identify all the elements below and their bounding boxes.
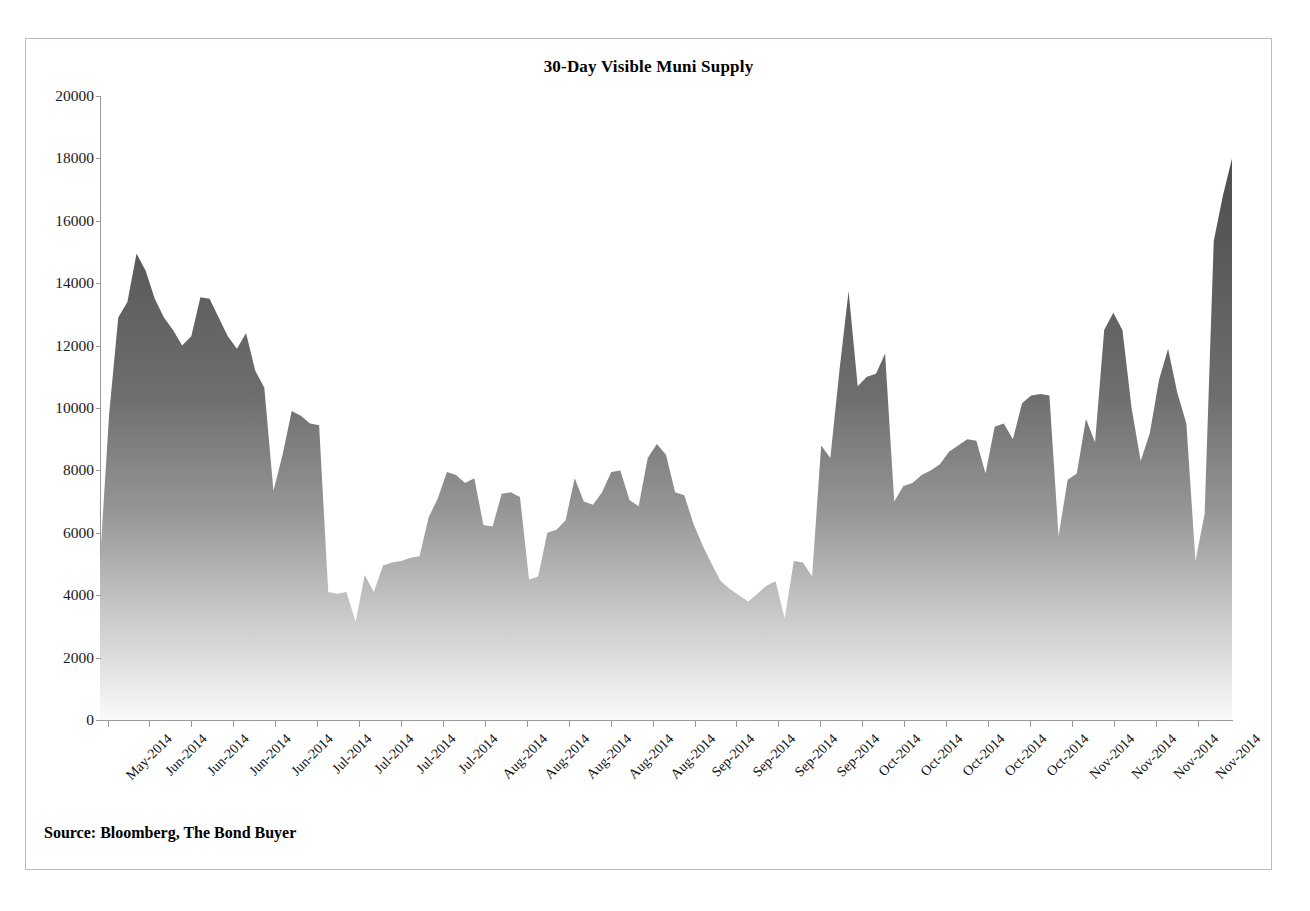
x-tick-label: Aug-2014 xyxy=(541,731,592,782)
x-tick-label: Sep-2014 xyxy=(750,731,799,780)
x-tick-mark xyxy=(317,721,318,727)
x-tick-label: Jul-2014 xyxy=(455,731,501,777)
x-tick-label: Sep-2014 xyxy=(792,731,841,780)
x-tick-label: May-2014 xyxy=(123,731,176,784)
chart-title: 30-Day Visible Muni Supply xyxy=(26,57,1271,77)
x-tick-label: Oct-2014 xyxy=(876,731,925,780)
y-tick-label: 18000 xyxy=(55,150,94,166)
x-tick-label: Sep-2014 xyxy=(834,731,883,780)
y-tick-mark xyxy=(96,470,101,471)
x-tick-mark xyxy=(1072,721,1073,727)
y-tick-mark xyxy=(96,595,101,596)
plot-area xyxy=(100,96,1232,720)
y-tick-label: 8000 xyxy=(63,462,94,478)
y-tick-mark xyxy=(96,346,101,347)
x-tick-label: Jun-2014 xyxy=(205,731,253,779)
x-tick-mark xyxy=(569,721,570,727)
x-tick-mark xyxy=(653,721,654,727)
x-tick-mark xyxy=(443,721,444,727)
x-tick-mark xyxy=(401,721,402,727)
y-tick-mark xyxy=(96,158,101,159)
y-tick-label: 0 xyxy=(86,712,94,728)
x-tick-mark xyxy=(820,721,821,727)
area-series-path xyxy=(100,158,1232,720)
x-tick-label: Oct-2014 xyxy=(1043,731,1092,780)
x-tick-mark xyxy=(1156,721,1157,727)
x-tick-mark xyxy=(1030,721,1031,727)
x-tick-mark xyxy=(988,721,989,727)
x-tick-label: Jul-2014 xyxy=(371,731,417,777)
x-tick-mark xyxy=(191,721,192,727)
area-chart-svg xyxy=(100,96,1232,720)
x-tick-mark xyxy=(108,721,109,727)
y-tick-label: 14000 xyxy=(55,275,94,291)
x-tick-label: Oct-2014 xyxy=(960,731,1009,780)
x-tick-mark xyxy=(485,721,486,727)
x-tick-label: Oct-2014 xyxy=(1001,731,1050,780)
x-tick-mark xyxy=(695,721,696,727)
y-tick-mark xyxy=(96,408,101,409)
y-tick-label: 12000 xyxy=(55,338,94,354)
y-axis-labels: 0200040006000800010000120001400016000180… xyxy=(26,39,94,871)
x-tick-mark xyxy=(736,721,737,727)
x-tick-mark xyxy=(778,721,779,727)
y-tick-label: 20000 xyxy=(55,88,94,104)
x-tick-mark xyxy=(611,721,612,727)
x-tick-label: Aug-2014 xyxy=(500,731,551,782)
x-tick-label: Aug-2014 xyxy=(625,731,676,782)
x-tick-label: Jul-2014 xyxy=(413,731,459,777)
x-tick-label: Nov-2014 xyxy=(1086,731,1137,782)
x-tick-mark xyxy=(1114,721,1115,727)
x-tick-label: Oct-2014 xyxy=(918,731,967,780)
y-tick-label: 4000 xyxy=(63,587,94,603)
x-tick-mark xyxy=(275,721,276,727)
y-tick-label: 16000 xyxy=(55,213,94,229)
y-tick-mark xyxy=(96,96,101,97)
chart-figure: 30-Day Visible Muni Supply 0200040006000… xyxy=(25,38,1272,870)
x-tick-label: Jul-2014 xyxy=(330,731,376,777)
x-tick-mark xyxy=(149,721,150,727)
x-tick-label: Nov-2014 xyxy=(1170,731,1221,782)
x-tick-label: Nov-2014 xyxy=(1212,731,1263,782)
y-tick-label: 6000 xyxy=(63,525,94,541)
x-tick-mark xyxy=(1198,721,1199,727)
x-tick-mark xyxy=(359,721,360,727)
y-tick-mark xyxy=(96,720,101,721)
x-tick-label: Jun-2014 xyxy=(289,731,337,779)
x-tick-mark xyxy=(904,721,905,727)
x-tick-mark xyxy=(862,721,863,727)
x-tick-label: Aug-2014 xyxy=(667,731,718,782)
y-tick-mark xyxy=(96,658,101,659)
y-tick-label: 10000 xyxy=(55,400,94,416)
x-axis-line xyxy=(100,720,1233,721)
x-tick-mark xyxy=(527,721,528,727)
y-tick-mark xyxy=(96,221,101,222)
x-tick-label: Nov-2014 xyxy=(1128,731,1179,782)
x-tick-label: Aug-2014 xyxy=(583,731,634,782)
y-tick-mark xyxy=(96,533,101,534)
y-tick-label: 2000 xyxy=(63,650,94,666)
x-tick-mark xyxy=(946,721,947,727)
x-tick-mark xyxy=(233,721,234,727)
x-tick-label: Jun-2014 xyxy=(247,731,295,779)
source-note: Source: Bloomberg, The Bond Buyer xyxy=(44,824,296,842)
y-tick-mark xyxy=(96,283,101,284)
